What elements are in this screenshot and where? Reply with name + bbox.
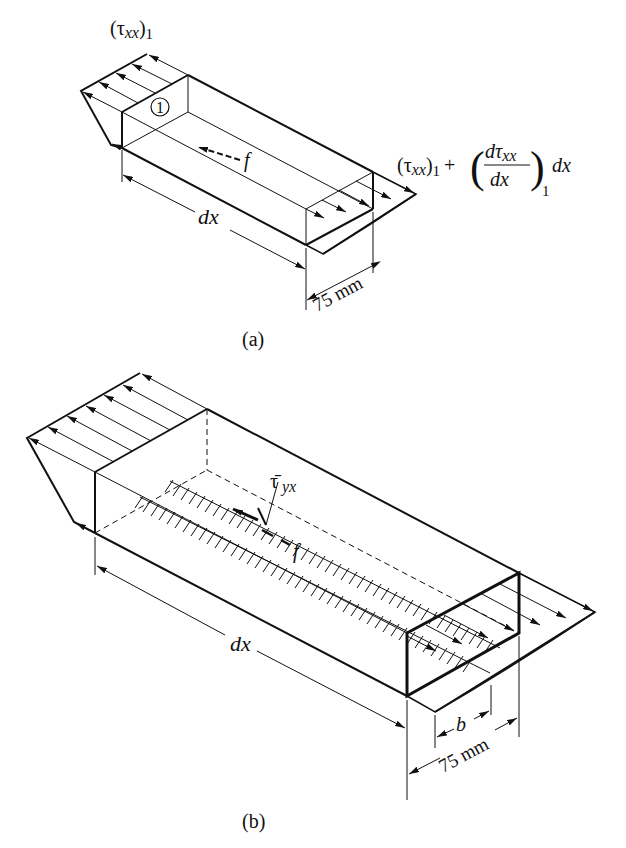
caption-a: (a) bbox=[242, 328, 264, 351]
width-label-b: 75 mm bbox=[435, 733, 492, 777]
length-label-b: dx bbox=[230, 631, 251, 656]
element-box-b bbox=[95, 409, 519, 696]
stress-label-left-a: (τxx)1 bbox=[110, 17, 153, 42]
derivative-numerator: dτxx bbox=[485, 140, 516, 164]
left-stress-distribution-b bbox=[27, 373, 207, 533]
caption-b: (b) bbox=[242, 810, 265, 833]
open-paren: ( bbox=[470, 143, 485, 192]
stress-label-right-a: (τxx)1+ ( dτxx dx ) 1 dx bbox=[397, 140, 571, 199]
derivative-denominator: dx bbox=[490, 168, 509, 190]
svg-text:(τxx)1+: (τxx)1+ bbox=[397, 154, 455, 179]
inner-width-label-b: b bbox=[456, 713, 466, 735]
svg-text:yx: yx bbox=[280, 478, 296, 496]
svg-text:τ̄: τ̄ bbox=[270, 470, 282, 492]
figure-b bbox=[27, 373, 595, 800]
force-label-a: f bbox=[244, 149, 252, 172]
hatched-shear-area bbox=[132, 480, 500, 673]
force-label-b: f bbox=[293, 540, 301, 563]
width-label-a: 75 mm bbox=[309, 272, 366, 316]
force-arrow-a bbox=[198, 147, 240, 160]
dx-tail: dx bbox=[552, 154, 571, 176]
figure-a bbox=[81, 54, 416, 310]
shear-stress-label-b: τ̄ yx bbox=[270, 470, 296, 496]
right-stress-distribution bbox=[306, 172, 416, 254]
length-label-a: dx bbox=[198, 204, 219, 229]
figure-canvas: (τxx)1 1 f dx 75 mm (τxx)1+ ( dτxx dx ) … bbox=[0, 0, 626, 848]
paren-subscript: 1 bbox=[542, 183, 550, 199]
element-number: 1 bbox=[156, 99, 164, 116]
left-stress-distribution bbox=[81, 54, 188, 148]
dimension-dx-b bbox=[95, 537, 407, 800]
